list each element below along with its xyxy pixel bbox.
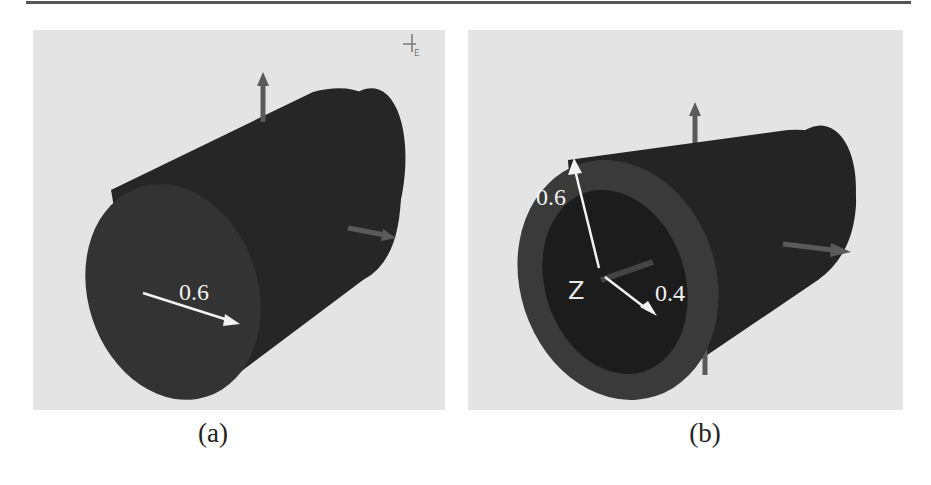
- vertical-axis-arrow: [689, 102, 701, 145]
- solid-cylinder-drawing: E 0.6: [33, 30, 445, 410]
- panel-hollow-cylinder: 0.6 0.4 Z: [468, 30, 903, 410]
- caption-a: (a): [173, 418, 253, 449]
- svg-text:E: E: [414, 48, 420, 58]
- radius-label: 0.6: [179, 279, 209, 305]
- caption-b: (b): [665, 418, 745, 449]
- top-rule: [26, 1, 911, 4]
- z-axis-label: Z: [568, 277, 584, 305]
- inner-radius-label: 0.4: [655, 280, 685, 306]
- axis-triad-icon: E: [403, 34, 420, 58]
- hollow-cylinder-drawing: 0.6 0.4 Z: [468, 30, 903, 410]
- panel-solid-cylinder: E 0.6: [33, 30, 445, 410]
- outer-radius-label: 0.6: [536, 184, 566, 210]
